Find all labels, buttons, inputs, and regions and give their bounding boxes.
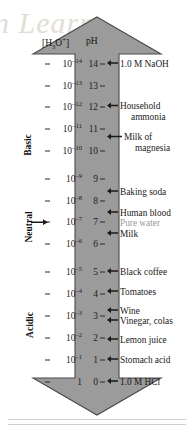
callout-label: Baking soda bbox=[120, 187, 166, 198]
left-arrow-icon bbox=[107, 377, 118, 386]
left-arrow-icon bbox=[107, 229, 118, 238]
callout-tomatoes: Tomatoes bbox=[107, 287, 156, 298]
left-arrow-icon bbox=[107, 355, 118, 364]
callout-label: Milk bbox=[120, 229, 138, 240]
callout-label-group: Milk of magnesia bbox=[124, 132, 170, 154]
callout-label-line2: magnesia bbox=[124, 143, 170, 154]
callout-vinegar-colas: Vinegar, colas bbox=[107, 316, 173, 327]
left-arrow-icon bbox=[107, 316, 118, 325]
header-concentration: [H3O+] bbox=[42, 36, 69, 50]
callout-baking-soda: Baking soda bbox=[107, 187, 166, 198]
callout-label-group: Household ammonia bbox=[120, 101, 166, 123]
callout-label: Vinegar, colas bbox=[120, 316, 173, 327]
callout-stomach-acid: Stomach acid bbox=[107, 355, 170, 366]
left-arrow-icon bbox=[107, 101, 118, 110]
left-arrow-icon bbox=[107, 267, 118, 276]
callout-label: Lemon juice bbox=[120, 335, 167, 346]
callout-label: Pure water bbox=[120, 218, 160, 229]
left-arrow-icon bbox=[107, 208, 118, 217]
ph-scale-figure: n Learn [H3O+] pH 10–14 14 10–13 13 10–1… bbox=[0, 0, 194, 432]
callout-label-line2: ammonia bbox=[120, 112, 166, 123]
substance-callouts: 1.0 M NaOH Household ammonia Milk of mag… bbox=[0, 0, 194, 432]
callout-pure-water: Pure water bbox=[107, 218, 160, 229]
callout-label: Tomatoes bbox=[120, 287, 156, 298]
callout-label: 1.0 M NaOH bbox=[120, 59, 169, 70]
left-arrow-icon bbox=[107, 59, 118, 68]
callout-lemon-juice: Lemon juice bbox=[107, 335, 167, 346]
header-ph: pH bbox=[86, 36, 98, 46]
callout-milk: Milk bbox=[107, 229, 138, 240]
left-arrow-icon bbox=[107, 335, 118, 344]
callout-naoh: 1.0 M NaOH bbox=[107, 59, 169, 70]
neutral-pointer-arrow-icon bbox=[31, 217, 48, 227]
callout-label: Household bbox=[120, 101, 160, 111]
callout-milk-of-magnesia: Milk of magnesia bbox=[107, 132, 170, 154]
left-arrow-icon bbox=[107, 132, 122, 141]
left-arrow-icon bbox=[107, 306, 118, 315]
callout-label: Black coffee bbox=[120, 267, 167, 278]
callout-household-ammonia: Household ammonia bbox=[107, 101, 166, 123]
callout-label: Stomach acid bbox=[120, 355, 170, 366]
callout-hcl: 1.0 M HCl bbox=[107, 377, 160, 388]
left-arrow-icon bbox=[107, 218, 118, 227]
callout-label: 1.0 M HCl bbox=[120, 377, 160, 388]
callout-label: Milk of bbox=[124, 132, 152, 142]
left-arrow-icon bbox=[107, 287, 118, 296]
callout-black-coffee: Black coffee bbox=[107, 267, 167, 278]
left-arrow-icon bbox=[107, 187, 118, 196]
